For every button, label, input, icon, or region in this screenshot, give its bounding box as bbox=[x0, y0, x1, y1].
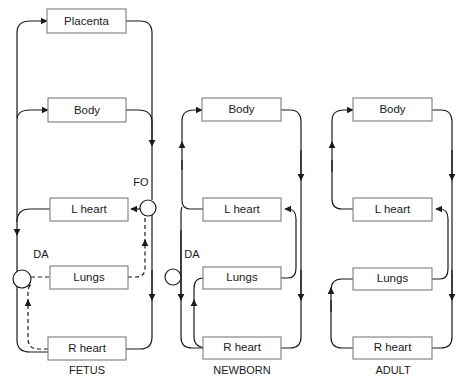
adult-rheart-left-out bbox=[331, 300, 353, 348]
fetus-da-link-dashed bbox=[28, 284, 32, 303]
newborn-lungs-inlet bbox=[194, 278, 203, 303]
node-newborn-lheart-label: L heart bbox=[224, 203, 260, 215]
fetus-flow-lines bbox=[17, 21, 152, 352]
node-fetus-lungs-label: Lungs bbox=[73, 271, 105, 283]
newborn-flow-lines bbox=[181, 110, 301, 348]
panel-caption-adult: ADULT bbox=[375, 364, 411, 376]
adult-flow-lines bbox=[331, 110, 452, 348]
fetus-right-trunk-down bbox=[126, 214, 152, 349]
newborn-body-out bbox=[281, 110, 301, 180]
adult-lungs-to-lheart bbox=[432, 209, 448, 279]
newborn-shunts: DA bbox=[165, 248, 200, 285]
node-newborn-body-label: Body bbox=[228, 103, 254, 115]
newborn-lungs-to-lheart bbox=[281, 209, 296, 278]
newborn-nodes: Body L heart Lungs R heart bbox=[202, 98, 281, 359]
node-fetus-placenta-label: Placenta bbox=[64, 15, 109, 27]
node-newborn-lungs-label: Lungs bbox=[226, 271, 258, 283]
shunt-fetus-fo-label: FO bbox=[133, 176, 149, 188]
newborn-rheart-left-out bbox=[181, 300, 203, 348]
node-adult-rheart-label: R heart bbox=[374, 341, 413, 353]
adult-to-rheart bbox=[432, 298, 452, 348]
node-newborn-rheart-label: R heart bbox=[223, 341, 262, 353]
newborn-lheart-left-out bbox=[182, 160, 203, 209]
shunt-newborn-da-circle[interactable] bbox=[165, 269, 181, 285]
fetus-trunk-to-body bbox=[17, 110, 48, 120]
node-fetus-rheart-label: R heart bbox=[68, 342, 107, 354]
adult-to-body bbox=[332, 110, 353, 145]
node-adult-lheart-label: L heart bbox=[375, 203, 411, 215]
adult-body-out bbox=[432, 110, 452, 180]
fetus-rheart-to-da-dashed bbox=[28, 300, 48, 349]
node-adult-body-label: Body bbox=[379, 103, 405, 115]
adult-lungs-inlet bbox=[331, 279, 353, 292]
fetus-trunk-upper2 bbox=[17, 21, 47, 118]
shunt-fetus-da-label: DA bbox=[33, 248, 49, 260]
newborn-to-rheart bbox=[281, 298, 301, 348]
node-fetus-body-label: Body bbox=[74, 104, 100, 116]
fetus-lheart-to-trunk bbox=[17, 209, 50, 222]
fetus-lungs-to-fo-dashed bbox=[128, 240, 145, 277]
node-adult-lungs-label: Lungs bbox=[377, 272, 409, 284]
panel-caption-newborn: NEWBORN bbox=[213, 364, 271, 376]
newborn-to-body bbox=[182, 110, 202, 145]
diagram-canvas: Placenta Body L heart Lungs R heart FO D… bbox=[0, 0, 467, 386]
circulation-diagram: Placenta Body L heart Lungs R heart FO D… bbox=[0, 0, 467, 386]
node-fetus-lheart-label: L heart bbox=[71, 203, 107, 215]
shunt-fetus-fo-circle[interactable] bbox=[140, 200, 156, 216]
panel-caption-fetus: FETUS bbox=[69, 364, 105, 376]
adult-nodes: Body L heart Lungs R heart bbox=[353, 98, 432, 359]
fetus-body-out bbox=[126, 110, 152, 146]
adult-lheart-left-out bbox=[332, 160, 353, 209]
shunt-fetus-da-circle[interactable] bbox=[13, 270, 31, 288]
fetus-nodes: Placenta Body L heart Lungs R heart bbox=[47, 9, 128, 360]
shunt-newborn-da-label: DA bbox=[184, 248, 200, 260]
